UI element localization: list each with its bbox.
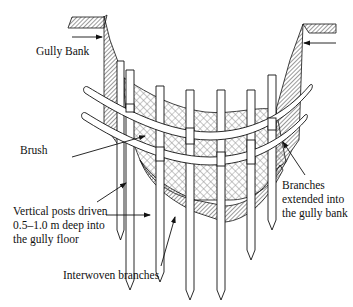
left-bank-cap [68, 15, 107, 28]
post-3 [156, 86, 164, 282]
label-interwoven-branches: Interwoven branches [63, 268, 159, 282]
label-vertical-posts: Vertical posts driven 0.5–1.0 m deep int… [13, 204, 108, 246]
post-5 [217, 90, 225, 300]
post-1 [117, 61, 124, 240]
label-gully-bank: Gully Bank [36, 44, 89, 58]
post-7 [268, 75, 276, 230]
label-branches-extended-line1: Branches [282, 178, 348, 192]
right-bank-cap [303, 24, 336, 33]
label-brush: Brush [20, 143, 47, 157]
label-vertical-posts-line3: the gully floor [13, 232, 108, 246]
post-4 [186, 90, 194, 300]
post-6 [247, 90, 255, 260]
post-2 [126, 70, 134, 290]
label-vertical-posts-line2: 0.5–1.0 m deep into [13, 218, 108, 232]
label-branches-extended-line3: the gully bank [282, 206, 348, 220]
label-branches-extended: Branches extended into the gully bank [282, 178, 348, 220]
label-branches-extended-line2: extended into [282, 192, 348, 206]
label-vertical-posts-line1: Vertical posts driven [13, 204, 108, 218]
